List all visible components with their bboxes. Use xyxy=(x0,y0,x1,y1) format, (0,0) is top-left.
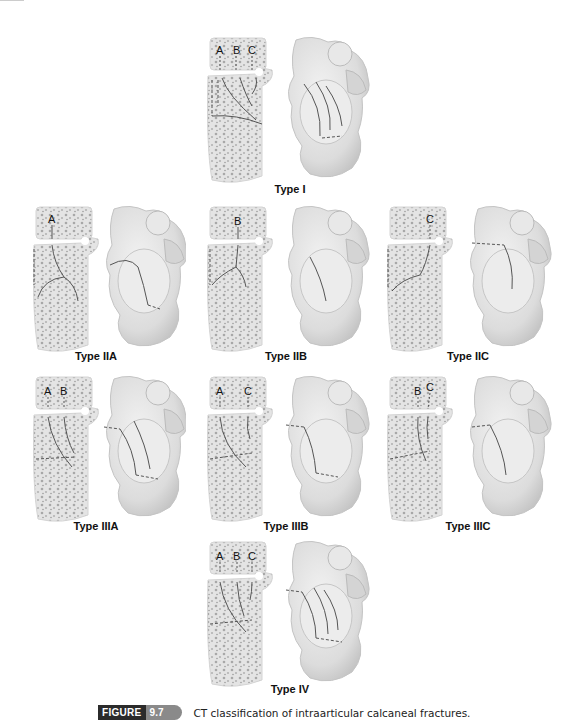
panel-label: Type IIA xyxy=(6,350,186,362)
bone-illustration: B xyxy=(196,205,376,355)
panel-label: Type IV xyxy=(200,683,380,695)
panel-label: Type I xyxy=(200,183,380,195)
bone-illustration: AB xyxy=(6,375,186,525)
label-b: B xyxy=(233,550,240,562)
figure-caption: FIGURE 9.7 CT classification of intraart… xyxy=(98,705,470,720)
label-a: A xyxy=(216,385,224,397)
label-b: B xyxy=(414,385,421,397)
panel-type-iiic: BC Type IIIC xyxy=(378,375,558,540)
panel-type-iia: A Type IIA xyxy=(6,205,186,370)
panel-type-iiia: AB Type IIIA xyxy=(6,375,186,540)
label-c: C xyxy=(248,44,256,56)
panel-type-iv: ABC Type IV xyxy=(200,540,380,705)
label-b: B xyxy=(234,215,241,227)
panel-type-iic: C Type IIC xyxy=(378,205,558,370)
label-a: A xyxy=(216,44,224,56)
label-b: B xyxy=(60,385,67,397)
label-c: C xyxy=(426,381,434,393)
panel-type-iiib: AC Type IIIB xyxy=(196,375,376,540)
panel-label: Type IIB xyxy=(196,350,376,362)
figure-tag: FIGURE xyxy=(98,705,146,720)
figure-number: 9.7 xyxy=(146,705,182,720)
label-c: C xyxy=(248,550,256,562)
bone-illustration: AC xyxy=(196,375,376,525)
bone-illustration: BC xyxy=(378,375,558,525)
bone-illustration: C xyxy=(378,205,558,355)
caption-text: CT classification of intraarticular calc… xyxy=(194,707,471,719)
bone-illustration: ABC xyxy=(200,36,380,186)
bone-illustration: ABC xyxy=(200,540,380,690)
label-a: A xyxy=(44,385,52,397)
panel-type-iib: B Type IIB xyxy=(196,205,376,370)
page-edge-line xyxy=(0,0,24,1)
bone-illustration: A xyxy=(6,205,186,355)
label-a: A xyxy=(216,550,224,562)
panel-label: Type IIIB xyxy=(196,520,376,532)
panel-label: Type IIIA xyxy=(6,520,186,532)
label-c: C xyxy=(426,213,434,225)
label-b: B xyxy=(233,44,240,56)
label-c: C xyxy=(244,385,252,397)
panel-label: Type IIC xyxy=(378,350,558,362)
label-a: A xyxy=(48,213,56,225)
panel-label: Type IIIC xyxy=(378,520,558,532)
panel-type-i: ABC Type I xyxy=(200,36,380,201)
